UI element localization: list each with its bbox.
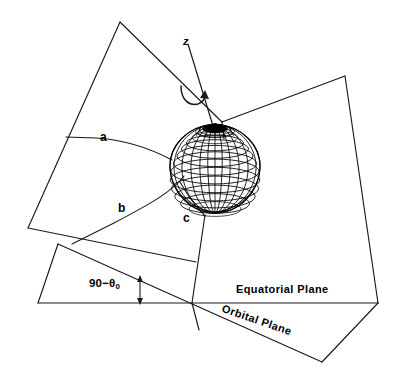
label-ray-c: c: [183, 212, 190, 224]
diagram-vector-graphic: [0, 0, 397, 385]
wireframe-globe: [170, 124, 260, 216]
label-angle-main: 90−θ: [89, 277, 116, 289]
right-plane-edge-top: [222, 76, 345, 122]
right-plane-edge-right: [345, 76, 378, 303]
label-equatorial-plane: Equatorial Plane: [236, 284, 329, 295]
angle-marker-head-top: [137, 275, 143, 282]
diagram-canvas: a b c z 90−θ0 Equatorial Plane Orbital P…: [0, 0, 397, 385]
leader-a: [66, 137, 172, 160]
upper-left-plane-edge-topleft: [28, 22, 120, 228]
leader-b: [72, 176, 184, 244]
label-ray-a: a: [100, 131, 107, 143]
z-axis-group: [181, 44, 213, 126]
z-axis-line: [188, 44, 213, 126]
label-angle-subscript: 0: [116, 282, 121, 291]
label-angle-obliquity: 90−θ0: [89, 278, 120, 290]
orbital-plane-edge-left: [38, 244, 58, 303]
label-axis-z: z: [183, 36, 189, 47]
orbital-plane-edge-right: [322, 303, 378, 362]
seam-globe-to-equator: [192, 215, 205, 303]
angle-marker-head-bottom: [137, 298, 143, 305]
leader-b-curve: [72, 176, 184, 244]
rotation-arrow-head: [200, 90, 209, 99]
plane-seam-vertical: [192, 215, 205, 330]
leader-a-curve: [66, 137, 172, 160]
label-ray-b: b: [118, 202, 125, 214]
